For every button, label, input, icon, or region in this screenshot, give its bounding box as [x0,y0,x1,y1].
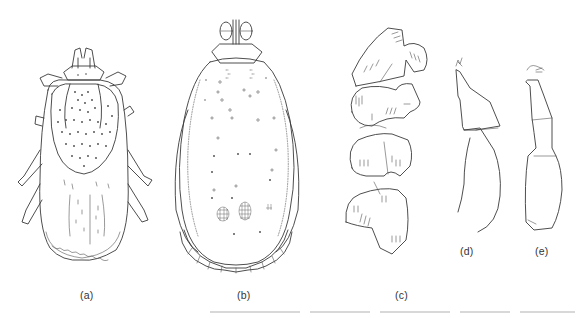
panel-label-d: (d) [460,245,473,257]
panel-c-drawing [346,28,427,254]
panel-a-drawing [18,48,152,261]
panel-e-drawing [525,66,562,231]
panel-d-drawing [456,58,500,232]
panel-label-a: (a) [80,289,93,301]
panel-label-e: (e) [535,245,548,257]
figure-drawings [0,0,581,318]
cropped-caption-fragment [0,311,581,318]
panel-b-drawing [175,20,299,273]
panel-label-c: (c) [395,289,408,301]
body-pores [204,77,277,235]
panel-label-b: (b) [237,289,250,301]
scientific-figure: (a) (b) (c) (d) (e) [0,0,581,318]
